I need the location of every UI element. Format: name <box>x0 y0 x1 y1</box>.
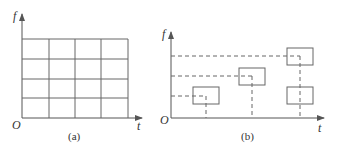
projection-lines <box>171 56 300 118</box>
y-axis-label-b: f <box>162 27 167 41</box>
time-frequency-diagram: f O t (a) f O t (b) <box>0 0 338 152</box>
panel-b: f O t (b) <box>160 27 324 143</box>
x-axis-label-b: t <box>318 121 322 135</box>
x-axis-label-a: t <box>137 119 141 133</box>
time-frequency-atoms <box>193 48 313 104</box>
caption-a: (a) <box>68 130 81 143</box>
tiling-grid <box>22 39 128 118</box>
origin-label-b: O <box>160 113 169 127</box>
panel-a: f O t (a) <box>12 9 142 143</box>
origin-label-a: O <box>12 118 21 132</box>
y-axis-label-a: f <box>13 9 18 23</box>
caption-b: (b) <box>241 130 254 143</box>
atom-box-1 <box>193 87 219 104</box>
